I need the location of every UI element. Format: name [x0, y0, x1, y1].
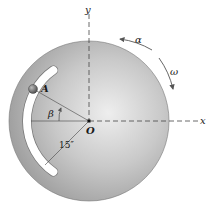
origin-label: O	[86, 125, 95, 136]
omega-label: ω	[170, 66, 178, 77]
x-axis-label: x	[200, 115, 206, 126]
alpha-label: α	[135, 34, 142, 45]
disk-diagram: y x O A β 15″ α ω	[0, 0, 215, 205]
y-axis-label: y	[84, 4, 91, 15]
beta-label: β	[47, 108, 54, 119]
origin-point	[88, 120, 91, 123]
ball-a	[29, 85, 38, 94]
point-a-label: A	[40, 83, 49, 94]
radius-label: 15″	[59, 140, 74, 150]
